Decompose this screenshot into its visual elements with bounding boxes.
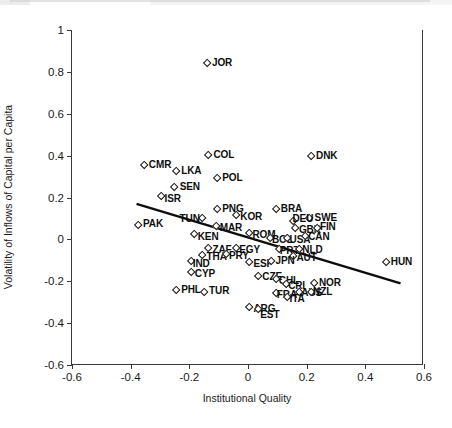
y-tick-label: 0.6 [48, 108, 64, 120]
diamond-marker-icon [139, 161, 148, 170]
figure-container: Volatility of Inflows of Capital per Cap… [0, 0, 452, 428]
diamond-marker-icon [213, 205, 222, 214]
y-tick-mark [67, 323, 72, 324]
data-point-label: AUT [296, 252, 316, 263]
y-tick-mark [67, 114, 72, 115]
y-tick-label: 0 [58, 233, 64, 245]
x-tick-label: -0.6 [62, 371, 82, 383]
diamond-marker-icon [271, 205, 280, 214]
y-tick-mark [67, 198, 72, 199]
trend-line [72, 30, 424, 365]
y-tick-label: -0.4 [44, 317, 64, 329]
data-point-label: KEN [198, 231, 219, 242]
y-tick-label: -0.6 [44, 359, 64, 371]
x-tick-mark [307, 364, 308, 369]
data-point-label: ISR [164, 193, 180, 204]
diamond-marker-icon [170, 183, 179, 192]
data-point-label: LKA [181, 165, 201, 176]
x-tick-label: 0.6 [416, 371, 432, 383]
data-point-label: JOR [212, 57, 232, 68]
diamond-marker-icon [213, 174, 222, 183]
data-point-label: ITA [290, 293, 305, 304]
x-tick-mark [365, 364, 366, 369]
x-tick-label: 0.4 [357, 371, 373, 383]
data-point-label: HUN [391, 256, 412, 267]
y-tick-label: 0.8 [48, 66, 64, 78]
diamond-marker-icon [172, 286, 181, 295]
data-point-label: MAR [220, 222, 242, 233]
x-tick-label: 0 [245, 371, 251, 383]
y-tick-label: 0.4 [48, 150, 64, 162]
data-point-label: JPN [275, 255, 294, 266]
x-tick-mark [189, 364, 190, 369]
data-point-label: KOR [240, 211, 262, 222]
y-tick-label: 1 [58, 24, 64, 36]
y-tick-mark [67, 30, 72, 31]
data-point-label: TUR [209, 285, 229, 296]
y-tick-mark [67, 281, 72, 282]
data-point-label: CMR [149, 159, 171, 170]
x-tick-label: -0.2 [179, 371, 199, 383]
diamond-marker-icon [199, 287, 208, 296]
data-point-label: DEU [292, 213, 313, 224]
y-axis-title: Volatility of Inflows of Capital per Cap… [2, 105, 14, 289]
y-tick-label: 0.2 [48, 192, 64, 204]
y-tick-mark [67, 156, 72, 157]
y-tick-mark [67, 239, 72, 240]
x-tick-mark [248, 364, 249, 369]
data-point-label: POL [222, 172, 242, 183]
data-point-label: PAK [143, 218, 163, 229]
data-point-label: NZL [313, 286, 332, 297]
data-point-label: PHL [181, 284, 201, 295]
x-tick-label: -0.4 [121, 371, 141, 383]
diamond-marker-icon [202, 59, 211, 68]
data-point-label: SEN [180, 181, 200, 192]
diamond-marker-icon [172, 167, 181, 176]
data-point-label: TUN [180, 213, 200, 224]
diamond-marker-icon [133, 220, 142, 229]
x-tick-label: 0.2 [299, 371, 315, 383]
y-tick-label: -0.2 [44, 275, 64, 287]
data-point-label: COL [213, 149, 234, 160]
x-tick-mark [424, 364, 425, 369]
plot-area: 10.80.60.40.20-0.2-0.4-0.6 -0.6-0.4-0.20… [71, 30, 423, 365]
data-point-label: CYP [195, 268, 215, 279]
scan-artifact-line [10, 0, 430, 2]
data-point-label: CAN [308, 231, 329, 242]
x-tick-mark [72, 364, 73, 369]
diamond-marker-icon [204, 151, 213, 160]
data-point-label: DNK [316, 150, 337, 161]
diamond-marker-icon [381, 258, 390, 267]
x-axis-title: Institutional Quality [203, 392, 292, 404]
diamond-marker-icon [307, 152, 316, 161]
y-tick-mark [67, 72, 72, 73]
data-point-label: EST [260, 309, 279, 320]
x-tick-mark [131, 364, 132, 369]
